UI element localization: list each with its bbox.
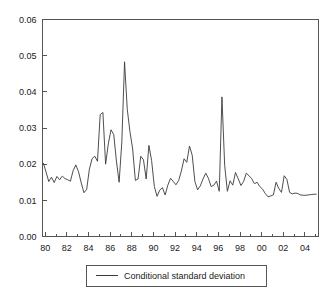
x-tick-label: 92	[170, 243, 180, 253]
x-tick-label: 90	[148, 243, 158, 253]
conditional-standard-deviation-line-chart: 0.000.010.020.030.040.050.06 80828486889…	[0, 0, 330, 297]
x-tick-label: 96	[213, 243, 223, 253]
x-tick-label: 98	[235, 243, 245, 253]
x-tick-label: 94	[192, 243, 202, 253]
x-tick-label: 84	[83, 243, 93, 253]
x-tick-label: 82	[62, 243, 72, 253]
x-tick-label: 86	[105, 243, 115, 253]
x-tick-label: 88	[127, 243, 137, 253]
y-tick-label: 0.02	[19, 159, 37, 169]
y-tick-label: 0.06	[19, 15, 37, 25]
x-tick-label: 04	[300, 243, 310, 253]
y-tick-label: 0.03	[19, 123, 37, 133]
y-tick-label: 0.00	[19, 232, 37, 242]
y-tick-label: 0.04	[19, 87, 37, 97]
y-tick-label: 0.01	[19, 196, 37, 206]
x-tick-label: 80	[40, 243, 50, 253]
x-tick-label: 02	[278, 243, 288, 253]
y-tick-label: 0.05	[19, 51, 37, 61]
legend-label-conditional-standard-deviation: Conditional standard deviation	[124, 271, 245, 281]
chart-legend: Conditional standard deviation	[86, 265, 266, 286]
x-tick-label: 00	[257, 243, 267, 253]
chart-figure: 0.000.010.020.030.040.050.06 80828486889…	[0, 0, 330, 297]
